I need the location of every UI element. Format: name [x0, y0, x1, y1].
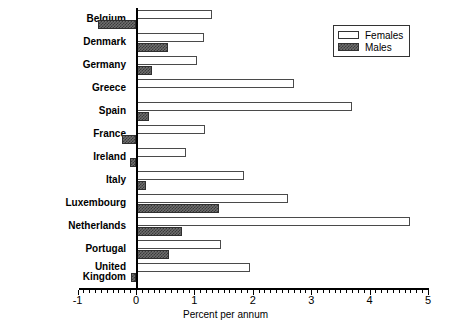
x-tick-minor [305, 290, 306, 293]
x-tick-minor [393, 290, 394, 293]
x-tick-minor [130, 290, 131, 293]
x-tick-minor [381, 290, 382, 293]
x-tick-minor [282, 290, 283, 293]
x-tick-label: 4 [355, 294, 385, 306]
category-label: Luxembourg [0, 198, 126, 208]
category-label: France [0, 129, 126, 139]
x-axis-line [79, 288, 429, 290]
x-tick-minor [229, 290, 230, 293]
x-tick-label: 3 [296, 294, 326, 306]
bar-males-denmark [136, 43, 168, 52]
bar-females-denmark [136, 33, 204, 42]
category-label: Denmark [0, 37, 126, 47]
x-tick-minor [352, 290, 353, 293]
x-tick-minor [405, 290, 406, 293]
x-tick-minor [212, 290, 213, 293]
x-tick-minor [206, 290, 207, 293]
bar-males-germany [136, 66, 152, 75]
x-tick-minor [224, 290, 225, 293]
legend-item-females: Females [338, 29, 403, 41]
x-tick-minor [154, 290, 155, 293]
x-tick-minor [317, 290, 318, 293]
x-tick-minor [346, 290, 347, 293]
bar-females-greece [136, 79, 294, 88]
bar-females-ireland [136, 148, 186, 157]
x-tick-minor [264, 290, 265, 293]
x-tick-minor [165, 290, 166, 293]
bar-females-france [136, 125, 205, 134]
category-label: Portugal [0, 244, 126, 254]
x-tick-minor [101, 290, 102, 293]
zero-axis-line [136, 8, 138, 290]
x-tick-minor [399, 290, 400, 293]
bar-females-portugal [136, 240, 221, 249]
bar-males-luxembourg [136, 204, 219, 213]
category-label: Greece [0, 83, 126, 93]
category-label: Netherlands [0, 221, 126, 231]
bar-males-portugal [136, 250, 169, 259]
x-tick-minor [95, 290, 96, 293]
chart-footnote [0, 323, 451, 328]
x-tick-minor [294, 290, 295, 293]
x-tick-minor [89, 290, 90, 293]
x-tick-minor [159, 290, 160, 293]
x-tick-minor [288, 290, 289, 293]
bar-females-luxembourg [136, 194, 288, 203]
x-tick-label: 2 [238, 294, 268, 306]
bar-females-belgium [136, 10, 212, 19]
x-tick-minor [200, 290, 201, 293]
bar-chart: BelgiumDenmarkGermanyGreeceSpainFranceIr… [0, 0, 451, 328]
x-tick-minor [247, 290, 248, 293]
legend-item-males: Males [338, 41, 403, 53]
category-label: Spain [0, 106, 126, 116]
x-tick-label: 5 [413, 294, 443, 306]
x-tick-minor [218, 290, 219, 293]
x-tick-label: 0 [121, 294, 151, 306]
x-axis-title: Percent per annum [0, 309, 451, 320]
x-tick-minor [270, 290, 271, 293]
x-tick-minor [107, 290, 108, 293]
bar-females-italy [136, 171, 244, 180]
x-tick-minor [189, 290, 190, 293]
x-tick-minor [148, 290, 149, 293]
x-tick-minor [375, 290, 376, 293]
x-tick-minor [422, 290, 423, 293]
x-tick-minor [416, 290, 417, 293]
x-tick-minor [329, 290, 330, 293]
x-tick-minor [300, 290, 301, 293]
x-tick-minor [358, 290, 359, 293]
x-tick-minor [340, 290, 341, 293]
x-tick-minor [124, 290, 125, 293]
legend-swatch-males-icon [338, 43, 359, 51]
x-tick-label: 1 [179, 294, 209, 306]
x-tick-minor [142, 290, 143, 293]
x-tick-minor [276, 290, 277, 293]
legend-label-females: Females [365, 30, 403, 41]
bar-males-france [122, 135, 136, 144]
legend-swatch-females-icon [338, 31, 359, 39]
x-tick-minor [171, 290, 172, 293]
category-label: Germany [0, 60, 126, 70]
category-label: Ireland [0, 152, 126, 162]
x-tick-label: -1 [63, 294, 93, 306]
bar-females-united-kingdom [136, 263, 250, 272]
x-tick-minor [241, 290, 242, 293]
x-tick-minor [83, 290, 84, 293]
x-tick-minor [113, 290, 114, 293]
x-tick-minor [410, 290, 411, 293]
legend-label-males: Males [365, 42, 392, 53]
category-label: Italy [0, 175, 126, 185]
x-tick-minor [387, 290, 388, 293]
x-tick-minor [364, 290, 365, 293]
bar-females-germany [136, 56, 197, 65]
bar-females-netherlands [136, 217, 410, 226]
legend: Females Males [333, 25, 410, 57]
x-tick-minor [177, 290, 178, 293]
bar-males-netherlands [136, 227, 182, 236]
bar-females-spain [136, 102, 352, 111]
x-tick-minor [335, 290, 336, 293]
x-tick-minor [259, 290, 260, 293]
x-tick-minor [183, 290, 184, 293]
x-tick-minor [235, 290, 236, 293]
x-tick-minor [323, 290, 324, 293]
